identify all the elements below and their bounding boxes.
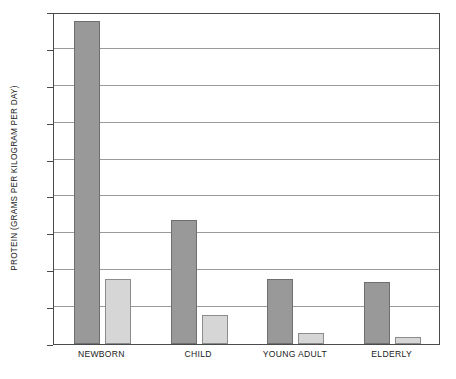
- bar-newborn-dark: [74, 21, 100, 344]
- gridline: [54, 85, 439, 86]
- y-axis-tick-mark: [47, 345, 53, 346]
- gridline: [54, 232, 439, 233]
- gridline: [54, 269, 439, 270]
- plot-area: [53, 13, 440, 345]
- gridline: [54, 122, 439, 123]
- bar-child-light: [202, 315, 228, 345]
- bar-young-adult-light: [298, 333, 324, 344]
- bar-elderly-light: [395, 337, 421, 344]
- gridline: [54, 195, 439, 196]
- y-axis-title: PROTEIN (GRAMS PER KILOGRAM PER DAY): [8, 8, 22, 348]
- bar-newborn-light: [105, 279, 131, 344]
- bar-young-adult-dark: [267, 279, 293, 344]
- bar-elderly-dark: [364, 282, 390, 344]
- gridline: [54, 48, 439, 49]
- x-axis-label-elderly: ELDERLY: [332, 349, 452, 359]
- protein-requirement-bar-chart: PROTEIN (GRAMS PER KILOGRAM PER DAY) 024…: [0, 0, 456, 379]
- gridline: [54, 159, 439, 160]
- bar-child-dark: [171, 220, 197, 344]
